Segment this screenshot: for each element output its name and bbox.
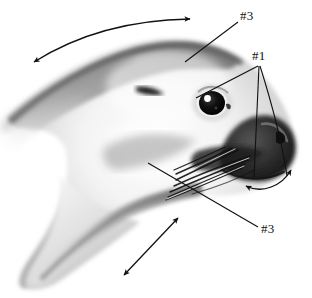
seal-head-illustration: [0, 0, 312, 298]
eye-highlight: [204, 95, 211, 102]
label-top-3: #3: [240, 9, 254, 22]
label-right-1: #1: [252, 49, 266, 62]
figure-canvas: #3 #1 #3: [0, 0, 312, 298]
label-bottom-3: #3: [261, 222, 275, 235]
eye: [192, 85, 232, 121]
